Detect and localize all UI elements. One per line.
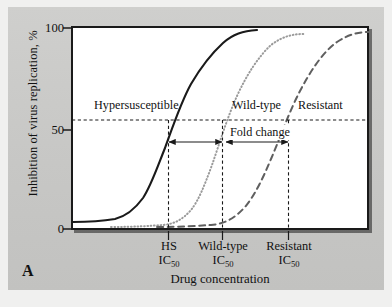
- x-tick-resistant-line1: Resistant: [248, 240, 330, 254]
- x-tick-resistant-line2: IC50: [248, 254, 330, 270]
- x-tick-label-resistant: Resistant IC50: [248, 240, 330, 270]
- annotation-fold-change: Fold change: [228, 125, 292, 140]
- curve-label-hypersusceptible: Hypersusceptible: [94, 98, 179, 113]
- figure-root: Inhibition of virus replication, % 100 5…: [0, 0, 392, 307]
- x-tick-resistant-ic: IC: [279, 253, 291, 267]
- panel-letter: A: [22, 262, 34, 280]
- y-tick-label-0: 0: [58, 222, 64, 237]
- curve-label-wild-type: Wild-type: [232, 98, 281, 113]
- x-tick-wildtype-sub: 50: [225, 259, 234, 269]
- x-tick-hs-ic: IC: [159, 253, 171, 267]
- x-tick-resistant-sub: 50: [291, 259, 300, 269]
- curve-label-resistant: Resistant: [298, 98, 343, 113]
- x-tick-wildtype-ic: IC: [213, 253, 225, 267]
- x-axis-label: Drug concentration: [71, 272, 369, 287]
- y-tick-label-100: 100: [45, 21, 64, 36]
- x-tick-hs-sub: 50: [171, 259, 180, 269]
- curves-layer: [71, 26, 369, 230]
- y-axis-label: Inhibition of virus replication, %: [26, 9, 41, 219]
- y-tick-label-50: 50: [51, 123, 64, 138]
